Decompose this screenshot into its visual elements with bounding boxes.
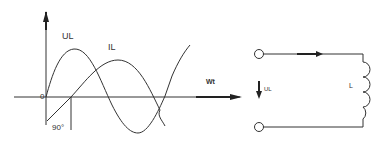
voltage-curve <box>46 45 190 133</box>
inductor-label: L <box>349 82 353 89</box>
inductor-coil-icon <box>363 62 370 119</box>
current-label: IL <box>108 42 116 52</box>
top-terminal <box>255 50 264 59</box>
bottom-terminal <box>255 123 264 132</box>
phase-label: 90° <box>52 123 64 132</box>
voltage-direction-arrow-icon <box>256 91 262 99</box>
inductor-circuit: UL L <box>255 50 371 132</box>
voltage-label: UL <box>62 31 74 41</box>
circuit-voltage-label: UL <box>264 86 272 92</box>
waveform-plot: UL IL 0 90° Wt <box>14 11 242 133</box>
x-axis-label: Wt <box>206 78 216 85</box>
inductor-phase-diagram: UL IL 0 90° Wt UL L <box>0 0 384 145</box>
x-axis-arrow-icon <box>230 94 242 100</box>
current-direction-arrow-icon <box>316 51 323 57</box>
origin-label: 0 <box>40 92 45 101</box>
